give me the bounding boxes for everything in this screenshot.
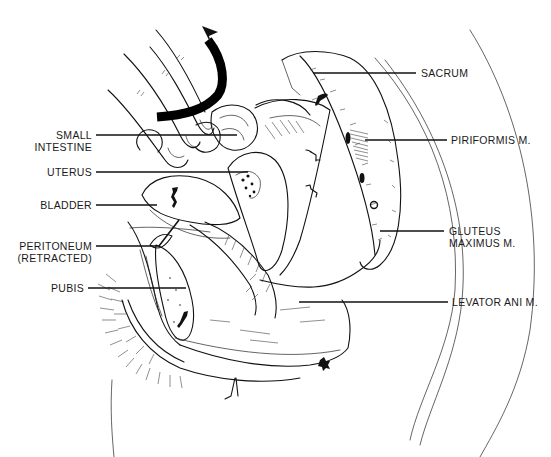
- rectum-shape: [255, 100, 330, 275]
- pubic-hair: [98, 274, 300, 388]
- uterus-shape: [228, 152, 288, 270]
- label-gluteus-maximus: GLUTEUS MAXIMUS M.: [449, 225, 516, 249]
- anatomy-diagram: SACRUM SMALL INTESTINE PIRIFORMIS M. UTE…: [0, 0, 551, 457]
- label-small-intestine: SMALL INTESTINE: [30, 129, 92, 153]
- label-bladder: BLADDER: [30, 199, 92, 211]
- anus-mark: [318, 357, 330, 371]
- piriformis-muscle: [350, 130, 368, 161]
- label-pubis: PUBIS: [30, 282, 84, 294]
- pubis-shape: [128, 222, 194, 345]
- curved-rotation-arrow-icon: [157, 26, 222, 117]
- peritoneum-shape: [130, 227, 210, 248]
- bladder-shape: [142, 176, 240, 239]
- label-peritoneum: PERITONEUM (RETRACTED): [10, 240, 92, 264]
- label-sacrum: SACRUM: [421, 67, 468, 79]
- leader-peritoneum: [96, 220, 179, 246]
- perineal-retractor: [225, 378, 238, 399]
- label-levator-ani: LEVATOR ANI M.: [452, 296, 538, 308]
- levator-ani-shape: [175, 240, 380, 366]
- label-piriformis: PIRIFORMIS M.: [451, 134, 531, 146]
- leader-lines: [88, 73, 448, 302]
- sacrum-shape: [282, 52, 401, 270]
- label-uterus: UTERUS: [30, 166, 92, 178]
